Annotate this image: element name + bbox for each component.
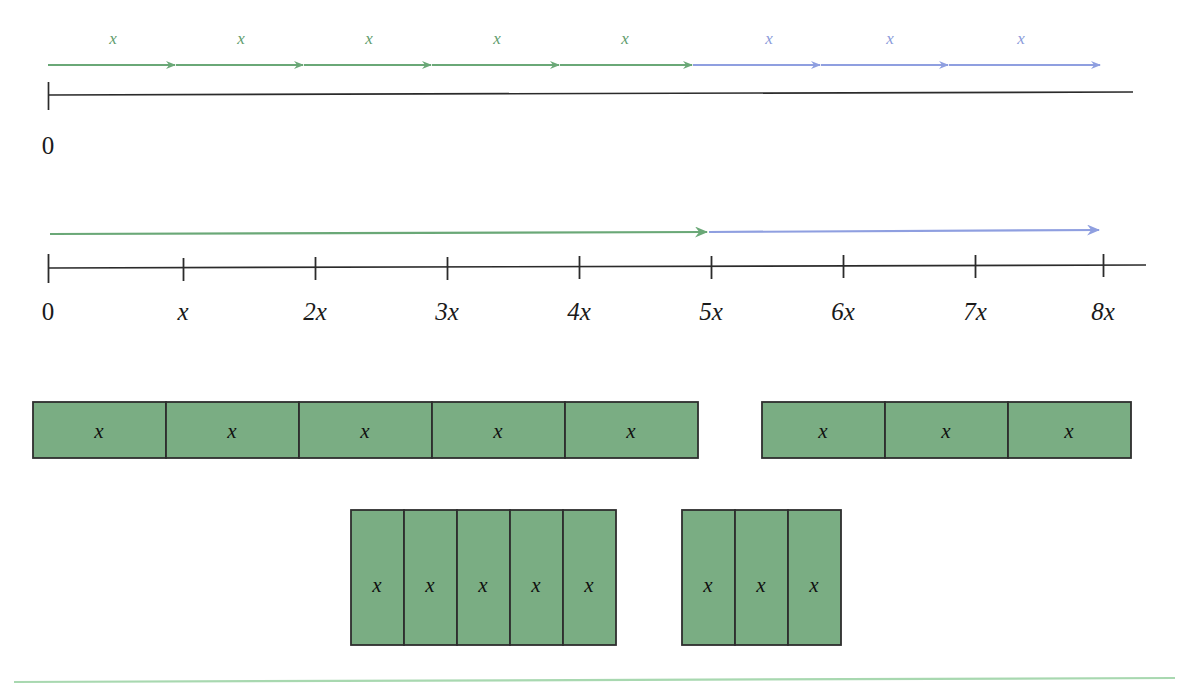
hbar-cell-label: x xyxy=(817,419,828,443)
tick-label-8: 8x xyxy=(1091,298,1115,325)
horizontal-group-of-three: x x x xyxy=(762,402,1131,458)
segment-label-7: x xyxy=(885,29,894,48)
segmented-number-line: x x x x x x x x 0 xyxy=(42,29,1133,159)
tick-label-7: 7x xyxy=(963,298,987,325)
hbar-cell-label: x xyxy=(1063,419,1074,443)
scaled-number-line: 0 x 2x 3x 4x 5x 6x 7x 8x xyxy=(42,230,1146,325)
hbar-cell-label: x xyxy=(625,419,636,443)
segment-label-4: x xyxy=(492,29,501,48)
axis-tick-labels: 0 x 2x 3x 4x 5x 6x 7x 8x xyxy=(42,298,1115,325)
horizontal-bar-model: x x x x x x x x xyxy=(33,402,1131,458)
tick-label-1: x xyxy=(176,298,188,325)
hbar-cell-label: x xyxy=(492,419,503,443)
tick-label-5: 5x xyxy=(699,298,723,325)
vbar-cell-label: x xyxy=(424,573,435,597)
axis-ticks xyxy=(49,254,1104,283)
vbar-cell-label: x xyxy=(583,573,594,597)
footer-rule xyxy=(14,678,1175,682)
hbar-cell-label: x xyxy=(93,419,104,443)
vbar-cell-label: x xyxy=(755,573,766,597)
tick-label-2: 2x xyxy=(303,298,327,325)
origin-label-top: 0 xyxy=(42,132,55,159)
segment-arrow-labels: x x x x x x x x xyxy=(108,29,1025,48)
vbar-cell-label: x xyxy=(530,573,541,597)
segment-label-2: x xyxy=(236,29,245,48)
vertical-bar-model: x x x x x x x x xyxy=(351,510,841,645)
vbar-cell-label: x xyxy=(371,573,382,597)
hbar-cell-label: x xyxy=(226,419,237,443)
axis-line-top xyxy=(48,92,1133,95)
math-figure: x x x x x x x x 0 xyxy=(0,0,1187,693)
figure-canvas: x x x x x x x x 0 xyxy=(0,0,1187,693)
segment-label-5: x xyxy=(620,29,629,48)
tick-label-4: 4x xyxy=(567,298,591,325)
vbar-cell-label: x xyxy=(477,573,488,597)
axis-line-bottom xyxy=(48,265,1146,268)
tick-label-0: 0 xyxy=(42,298,55,325)
vertical-group-of-three: x x x xyxy=(682,510,841,645)
hbar-cell-label: x xyxy=(359,419,370,443)
vbar-cell-label: x xyxy=(702,573,713,597)
vertical-group-of-five: x x x x x xyxy=(351,510,616,645)
segment-label-3: x xyxy=(364,29,373,48)
segment-label-1: x xyxy=(108,29,117,48)
long-green-arrow xyxy=(50,232,707,234)
horizontal-group-of-five: x x x x x xyxy=(33,402,698,458)
segment-label-8: x xyxy=(1016,29,1025,48)
long-blue-arrow xyxy=(709,230,1099,232)
hbar-cell-label: x xyxy=(940,419,951,443)
tick-label-6: 6x xyxy=(831,298,855,325)
tick-label-3: 3x xyxy=(434,298,459,325)
vbar-cell-label: x xyxy=(808,573,819,597)
segment-label-6: x xyxy=(764,29,773,48)
